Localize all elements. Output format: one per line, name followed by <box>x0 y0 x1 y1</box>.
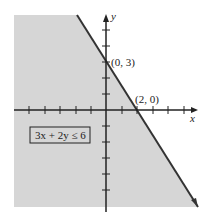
x-axis-label: x <box>189 112 195 124</box>
point-label-2-0: (2, 0) <box>135 93 159 106</box>
point-label-0-3: (0, 3) <box>111 56 135 69</box>
inequality-text: 3x + 2y ≤ 6 <box>35 129 86 141</box>
graph: y x (0, 3) (2, 0) 3x + 2y ≤ 6 <box>0 0 208 218</box>
y-axis-arrow-icon <box>103 14 109 22</box>
y-axis-label: y <box>110 10 116 22</box>
